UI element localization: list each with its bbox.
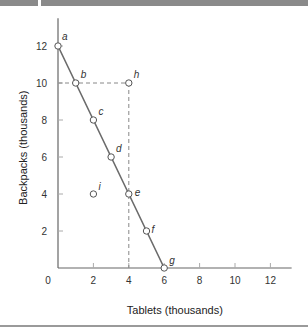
data-point-e: [126, 191, 132, 197]
point-label-e: e: [135, 187, 141, 198]
x-tick-label: 12: [265, 275, 277, 286]
data-point-d: [108, 154, 114, 160]
point-label-i: i: [98, 181, 101, 192]
y-tick-label: 8: [41, 115, 47, 126]
x-tick-label: 0: [45, 275, 51, 286]
point-label-g: g: [169, 255, 175, 266]
y-tick-label: 2: [41, 226, 47, 237]
point-label-b: b: [81, 69, 87, 80]
ppf-chart: 24681012024681012abcdefghiTablets (thous…: [0, 0, 308, 330]
data-point-h: [126, 80, 132, 86]
point-label-a: a: [62, 31, 68, 42]
y-tick-label: 6: [41, 152, 47, 163]
data-point-f: [143, 228, 149, 234]
x-tick-label: 2: [91, 275, 97, 286]
x-tick-label: 4: [126, 275, 132, 286]
x-tick-label: 6: [161, 275, 167, 286]
y-axis-label: Backpacks (thousands): [17, 91, 29, 205]
point-label-f: f: [152, 224, 156, 235]
point-label-d: d: [116, 143, 122, 154]
point-label-c: c: [98, 106, 103, 117]
y-tick-label: 4: [41, 189, 47, 200]
data-point-g: [161, 265, 167, 271]
x-axis-label: Tablets (thousands): [127, 304, 223, 316]
data-point-c: [90, 117, 96, 123]
x-tick-label: 10: [229, 275, 241, 286]
data-point-b: [73, 80, 79, 86]
y-tick-label: 12: [36, 41, 48, 52]
point-label-h: h: [134, 69, 140, 80]
y-tick-label: 10: [36, 78, 48, 89]
data-point-i: [90, 191, 96, 197]
data-point-a: [55, 43, 61, 49]
x-tick-label: 8: [197, 275, 203, 286]
